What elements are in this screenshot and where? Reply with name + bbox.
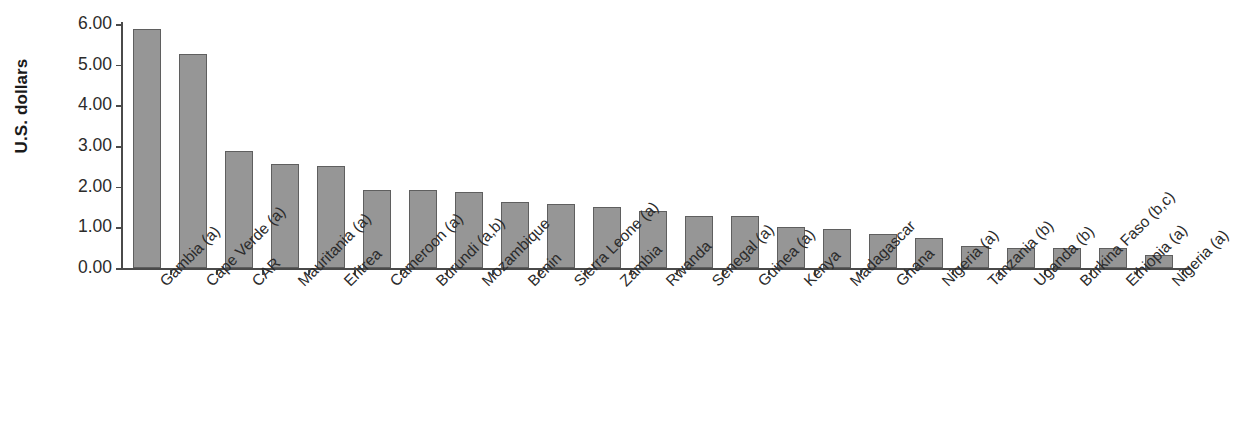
bar-chart: U.S. dollars 6.005.004.003.002.001.000.0… (0, 0, 1246, 424)
x-axis-tick-label: Zambia (617, 278, 628, 289)
y-axis-line (121, 22, 123, 268)
x-axis-tick-label: Sierra Leone (a) (571, 278, 582, 289)
x-axis-tick-label: Mauritania (a) (295, 278, 306, 289)
x-axis-tick-label: Kenya (801, 278, 812, 289)
x-axis-line (121, 268, 1191, 270)
x-axis-tick-labels: Gambia (a)Cape Verde (a)CARMauritania (a… (121, 272, 1191, 422)
x-axis-tick-label: Rwanda (663, 278, 674, 289)
x-axis-tick-label: Gambia (a) (157, 278, 168, 289)
y-axis-tick-mark (116, 268, 121, 270)
x-axis-tick-label: Eritrea (341, 278, 352, 289)
y-axis-title: U.S. dollars (12, 46, 32, 166)
x-axis-tick-label: Uganda (b) (1031, 278, 1042, 289)
x-axis-tick-label: Nigeria (a) (939, 278, 950, 289)
x-axis-tick-label: Madagascar (847, 278, 858, 289)
y-axis-tick-label: 1.00 (56, 218, 112, 236)
y-axis-tick-labels: 6.005.004.003.002.001.000.00 (56, 0, 112, 424)
y-axis-tick-label: 6.00 (56, 15, 112, 33)
y-axis-tick-label: 4.00 (56, 96, 112, 114)
bar (133, 29, 161, 268)
x-axis-tick-label: Tanzania (b) (985, 278, 996, 289)
x-axis-tick-label: Senegal (a) (709, 278, 720, 289)
y-axis-tick-mark (116, 187, 121, 189)
x-axis-tick-label: Ethiopia (a) (1123, 278, 1134, 289)
y-axis-tick-label: 3.00 (56, 137, 112, 155)
x-axis-tick-label: Cameroon (a) (387, 278, 398, 289)
y-axis-tick-label: 0.00 (56, 259, 112, 277)
x-axis-tick-label: Benin (525, 278, 536, 289)
x-axis-tick-label: Burkina Faso (b,c) (1077, 278, 1088, 289)
x-axis-tick-label: Ghana (893, 278, 904, 289)
y-axis-tick-label: 2.00 (56, 178, 112, 196)
x-axis-tick-label: Nigeria (a) (1169, 278, 1180, 289)
x-axis-tick-label: Mozambique (479, 278, 490, 289)
x-axis-tick-label: Guinea (a) (755, 278, 766, 289)
y-axis-tick-mark (116, 24, 121, 26)
y-axis-tick-mark (116, 65, 121, 67)
y-axis-tick-mark (116, 227, 121, 229)
x-axis-tick-label: Cape Verde (a) (203, 278, 214, 289)
x-axis-tick-label: CAR (249, 278, 260, 289)
y-axis-tick-mark (116, 146, 121, 148)
y-axis-tick-mark (116, 105, 121, 107)
x-axis-tick-label: Burundi (a,b) (433, 278, 444, 289)
y-axis-tick-label: 5.00 (56, 56, 112, 74)
